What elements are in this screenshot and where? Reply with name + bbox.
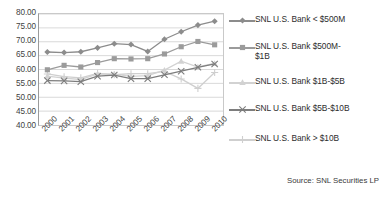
data-point-square: [179, 44, 184, 49]
legend-item[interactable]: SNL U.S. Bank $1B-$5B: [229, 76, 345, 88]
chart-container: 80.0075.0070.0065.0060.0055.0050.0045.00…: [0, 0, 380, 197]
legend-marker-triangle-icon: [229, 77, 255, 88]
data-point-diamond: [61, 50, 67, 56]
data-point-diamond: [195, 22, 201, 28]
legend-marker-diamond-icon: [229, 15, 255, 26]
y-axis-tick-label: 55.00: [0, 80, 36, 88]
data-point-diamond: [94, 45, 100, 51]
data-point-square: [95, 60, 100, 65]
data-point-square: [78, 64, 83, 69]
legend-label: SNL U.S. Bank $1B-$5B: [255, 76, 345, 86]
x-axis-labels: 2000200120022003200420052006200720082009…: [38, 127, 224, 167]
data-point-square: [45, 67, 50, 72]
legend-label: SNL U.S. Bank > $10B: [255, 133, 339, 143]
legend-item[interactable]: SNL U.S. Bank > $10B: [229, 133, 339, 145]
data-point-diamond: [239, 17, 245, 23]
legend-marker-dash-icon: [229, 134, 255, 145]
data-point-triangle: [178, 58, 184, 64]
y-axis-labels: 80.0075.0070.0065.0060.0055.0050.0045.00…: [0, 0, 36, 197]
legend-item[interactable]: SNL U.S. Bank $5B-$10B: [229, 103, 350, 115]
data-point-dash: [239, 136, 246, 143]
y-axis-tick-label: 50.00: [0, 94, 36, 102]
y-axis-tick-label: 45.00: [0, 108, 36, 116]
data-point-diamond: [44, 49, 50, 55]
legend-item[interactable]: SNL U.S. Bank < $500M: [229, 14, 345, 26]
y-axis-tick-label: 65.00: [0, 51, 36, 59]
data-point-diamond: [212, 18, 218, 24]
legend-label: SNL U.S. Bank $5B-$10B: [255, 103, 350, 113]
data-point-square: [145, 56, 150, 61]
y-axis-tick-label: 70.00: [0, 37, 36, 45]
legend-marker-square-icon: [229, 42, 255, 53]
plot-area: [38, 13, 224, 126]
data-point-square: [240, 45, 245, 50]
y-axis-tick-label: 60.00: [0, 66, 36, 74]
legend-label: SNL U.S. Bank $500M- $1B: [255, 41, 341, 61]
data-point-square: [112, 56, 117, 61]
data-point-square: [212, 42, 217, 47]
source-note: Source: SNL Securities LP: [229, 176, 379, 185]
y-axis-tick-label: 75.00: [0, 23, 36, 31]
legend-label: SNL U.S. Bank < $500M: [255, 14, 345, 24]
data-point-square: [128, 56, 133, 61]
data-point-diamond: [128, 41, 134, 47]
data-point-square: [162, 51, 167, 56]
legend-item[interactable]: SNL U.S. Bank $500M- $1B: [229, 41, 341, 61]
data-point-diamond: [78, 49, 84, 55]
plot-svg: [39, 14, 223, 125]
data-point-cross: [239, 106, 245, 112]
y-axis-tick-label: 80.00: [0, 9, 36, 17]
data-point-square: [62, 63, 67, 68]
series-line: [47, 21, 214, 52]
y-axis-tick-label: 40.00: [0, 122, 36, 130]
data-point-square: [195, 39, 200, 44]
data-point-diamond: [178, 29, 184, 35]
data-point-dash: [178, 75, 185, 82]
legend-marker-cross-icon: [229, 104, 255, 115]
data-point-triangle: [239, 79, 245, 85]
